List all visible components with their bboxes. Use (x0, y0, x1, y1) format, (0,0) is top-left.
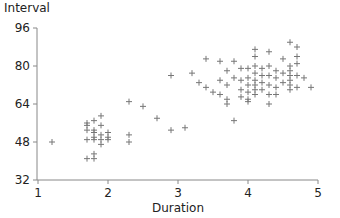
plus-marker-icon (266, 49, 272, 55)
x-axis-title: Duration (152, 201, 204, 215)
plus-marker-icon (273, 84, 279, 90)
plus-marker-icon (126, 99, 132, 105)
plus-marker-icon (252, 63, 258, 69)
plus-marker-icon (189, 70, 195, 76)
plus-marker-icon (266, 73, 272, 79)
plus-marker-icon (294, 44, 300, 50)
plus-marker-icon (238, 77, 244, 83)
axes: 324864809612345 (15, 21, 322, 200)
plus-marker-icon (91, 151, 97, 157)
plus-marker-icon (98, 141, 104, 147)
plus-marker-icon (266, 82, 272, 88)
plus-marker-icon (203, 84, 209, 90)
y-tick-label: 80 (15, 59, 30, 73)
plus-marker-icon (224, 82, 230, 88)
x-tick-label: 3 (174, 186, 182, 200)
plus-marker-icon (98, 113, 104, 119)
x-tick-label: 2 (104, 186, 112, 200)
plus-marker-icon (203, 56, 209, 62)
plus-marker-icon (252, 92, 258, 98)
scatter-chart: 324864809612345 Interval Duration (0, 0, 340, 218)
plus-marker-icon (182, 125, 188, 131)
plus-marker-icon (308, 84, 314, 90)
plus-marker-icon (287, 87, 293, 93)
plus-marker-icon (154, 115, 160, 121)
plus-marker-icon (217, 77, 223, 83)
plus-marker-icon (245, 89, 251, 95)
plus-marker-icon (84, 127, 90, 133)
plus-marker-icon (238, 94, 244, 100)
plus-marker-icon (266, 92, 272, 98)
y-tick-label: 32 (15, 173, 30, 187)
plus-marker-icon (126, 139, 132, 145)
plus-marker-icon (266, 63, 272, 69)
plus-marker-icon (266, 101, 272, 107)
x-tick-label: 5 (314, 186, 322, 200)
plus-marker-icon (280, 80, 286, 86)
plus-marker-icon (140, 103, 146, 109)
plus-marker-icon (287, 39, 293, 45)
plus-marker-icon (231, 118, 237, 124)
x-tick-label: 4 (244, 186, 252, 200)
plus-marker-icon (49, 139, 55, 145)
plus-marker-icon (238, 87, 244, 93)
plus-marker-icon (259, 87, 265, 93)
plus-marker-icon (273, 68, 279, 74)
plus-marker-icon (294, 73, 300, 79)
plus-marker-icon (210, 89, 216, 95)
plus-marker-icon (196, 80, 202, 86)
plus-marker-icon (217, 58, 223, 64)
y-tick-label: 96 (15, 21, 30, 35)
y-axis-title: Interval (4, 1, 50, 15)
plus-marker-icon (245, 82, 251, 88)
plus-marker-icon (84, 156, 90, 162)
plus-marker-icon (259, 73, 265, 79)
plus-marker-icon (280, 70, 286, 76)
plus-marker-icon (98, 122, 104, 128)
plus-marker-icon (273, 75, 279, 81)
y-tick-label: 64 (15, 97, 30, 111)
plus-marker-icon (217, 92, 223, 98)
plus-marker-icon (294, 84, 300, 90)
plus-marker-icon (259, 80, 265, 86)
plus-marker-icon (259, 65, 265, 71)
plus-marker-icon (168, 73, 174, 79)
plus-marker-icon (245, 75, 251, 81)
plus-marker-icon (84, 137, 90, 143)
y-tick-label: 48 (15, 135, 30, 149)
plus-marker-icon (238, 65, 244, 71)
plus-marker-icon (245, 65, 251, 71)
plus-marker-icon (252, 46, 258, 52)
plus-marker-icon (231, 58, 237, 64)
plus-marker-icon (280, 56, 286, 62)
plus-marker-icon (224, 68, 230, 74)
data-points (49, 39, 314, 161)
plus-marker-icon (294, 54, 300, 60)
plus-marker-icon (224, 101, 230, 107)
plus-marker-icon (294, 61, 300, 67)
plus-marker-icon (252, 54, 258, 60)
x-tick-label: 1 (34, 186, 42, 200)
plus-marker-icon (252, 70, 258, 76)
plus-marker-icon (231, 75, 237, 81)
plus-marker-icon (168, 127, 174, 133)
plus-marker-icon (126, 132, 132, 138)
plus-marker-icon (273, 92, 279, 98)
plus-marker-icon (301, 75, 307, 81)
plot-area: 324864809612345 Interval Duration (0, 0, 340, 218)
plus-marker-icon (91, 118, 97, 124)
